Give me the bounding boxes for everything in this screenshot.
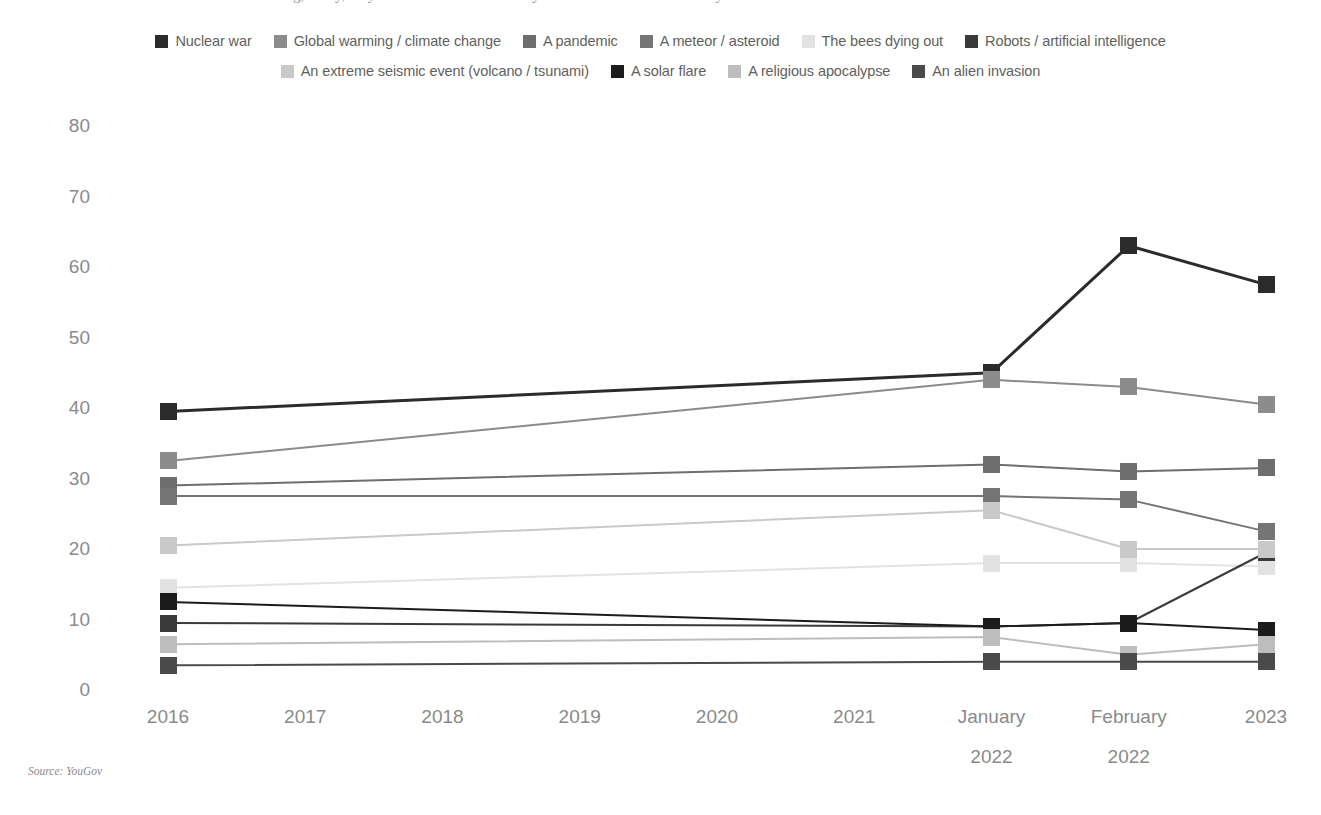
x-axis-tick-label: 2016 <box>147 706 189 728</box>
data-point-marker[interactable] <box>983 618 1000 635</box>
legend-item-label: Global warming / climate change <box>294 33 501 49</box>
chart-title-strip: Which of the following, if any, do you t… <box>0 0 1321 13</box>
data-point-marker[interactable] <box>160 403 177 420</box>
page-title: Which of the following, if any, do you t… <box>160 0 730 4</box>
x-axis-tick-label: 2019 <box>559 706 601 728</box>
data-point-marker[interactable] <box>1258 523 1275 540</box>
data-point-marker[interactable] <box>1258 558 1275 575</box>
data-point-marker[interactable] <box>983 653 1000 670</box>
plot-area: 0102030405060708020162017201820192020202… <box>0 0 1321 815</box>
legend-item[interactable]: An alien invasion <box>912 63 1040 79</box>
data-point-marker[interactable] <box>983 456 1000 473</box>
data-point-marker[interactable] <box>1120 463 1137 480</box>
y-axis-tick-label: 40 <box>30 397 90 419</box>
data-point-marker[interactable] <box>983 371 1000 388</box>
x-axis-tick-label: February <box>1091 706 1167 728</box>
series-line <box>168 563 1266 588</box>
data-point-marker[interactable] <box>983 629 1000 646</box>
data-point-marker[interactable] <box>160 593 177 610</box>
chart-container: Which of the following, if any, do you t… <box>0 0 1321 815</box>
y-axis-tick-label: 30 <box>30 468 90 490</box>
x-axis-tick-label: 2021 <box>833 706 875 728</box>
data-point-marker[interactable] <box>160 636 177 653</box>
plot-svg <box>0 0 1321 815</box>
x-axis-tick-label: 2018 <box>421 706 463 728</box>
legend-swatch-icon <box>523 35 536 48</box>
data-point-marker[interactable] <box>1120 615 1137 632</box>
series-line <box>168 380 1266 461</box>
y-axis-tick-label: 50 <box>30 327 90 349</box>
data-point-marker[interactable] <box>1120 646 1137 663</box>
legend-row-2: An extreme seismic event (volcano / tsun… <box>0 56 1321 86</box>
data-point-marker[interactable] <box>983 618 1000 635</box>
data-point-marker[interactable] <box>1120 555 1137 572</box>
data-point-marker[interactable] <box>1120 378 1137 395</box>
data-point-marker[interactable] <box>160 537 177 554</box>
legend-item[interactable]: Nuclear war <box>155 33 251 49</box>
legend-swatch-icon <box>802 35 815 48</box>
legend-item-label: Nuclear war <box>175 33 251 49</box>
legend-item-label: Robots / artificial intelligence <box>985 33 1166 49</box>
series-line <box>168 246 1266 412</box>
series-line <box>168 464 1266 485</box>
legend-item[interactable]: Robots / artificial intelligence <box>965 33 1166 49</box>
y-axis-tick-label: 60 <box>30 256 90 278</box>
data-point-marker[interactable] <box>1120 491 1137 508</box>
data-point-marker[interactable] <box>1258 396 1275 413</box>
x-axis-tick-label: 2017 <box>284 706 326 728</box>
legend-item[interactable]: An extreme seismic event (volcano / tsun… <box>281 63 589 79</box>
series-line <box>168 496 1266 531</box>
legend-swatch-icon <box>274 35 287 48</box>
legend-swatch-icon <box>912 65 925 78</box>
data-point-marker[interactable] <box>1258 459 1275 476</box>
data-point-marker[interactable] <box>1258 544 1275 561</box>
data-point-marker[interactable] <box>160 452 177 469</box>
y-axis-tick-label: 0 <box>30 679 90 701</box>
legend-item[interactable]: A meteor / asteroid <box>640 33 780 49</box>
legend-item-label: A pandemic <box>543 33 618 49</box>
data-point-marker[interactable] <box>1120 541 1137 558</box>
legend-item[interactable]: The bees dying out <box>802 33 944 49</box>
legend-item-label: A solar flare <box>631 63 706 79</box>
data-point-marker[interactable] <box>160 657 177 674</box>
data-point-marker[interactable] <box>983 555 1000 572</box>
source-note: Source: YouGov <box>28 765 102 777</box>
x-axis-tick-label: 2022 <box>1108 746 1150 768</box>
data-point-marker[interactable] <box>160 579 177 596</box>
data-point-marker[interactable] <box>1258 636 1275 653</box>
legend-swatch-icon <box>728 65 741 78</box>
legend-item[interactable]: A solar flare <box>611 63 706 79</box>
y-axis-tick-label: 70 <box>30 186 90 208</box>
legend-item-label: A religious apocalypse <box>748 63 890 79</box>
data-point-marker[interactable] <box>160 615 177 632</box>
legend-swatch-icon <box>611 65 624 78</box>
data-point-marker[interactable] <box>160 477 177 494</box>
x-axis-tick-label: 2023 <box>1245 706 1287 728</box>
legend-item[interactable]: A religious apocalypse <box>728 63 890 79</box>
legend-item-label: A meteor / asteroid <box>660 33 780 49</box>
data-point-marker[interactable] <box>1120 653 1137 670</box>
series-line <box>168 602 1266 630</box>
legend-swatch-icon <box>965 35 978 48</box>
legend-item[interactable]: A pandemic <box>523 33 618 49</box>
data-point-marker[interactable] <box>1258 541 1275 558</box>
legend-item-label: An extreme seismic event (volcano / tsun… <box>301 63 589 79</box>
series-line <box>168 637 1266 655</box>
data-point-marker[interactable] <box>1258 653 1275 670</box>
y-axis-tick-label: 80 <box>30 115 90 137</box>
data-point-marker[interactable] <box>983 364 1000 381</box>
data-point-marker[interactable] <box>160 488 177 505</box>
series-line <box>168 662 1266 666</box>
data-point-marker[interactable] <box>1258 622 1275 639</box>
legend-item-label: The bees dying out <box>822 33 944 49</box>
data-point-marker[interactable] <box>1120 237 1137 254</box>
data-point-marker[interactable] <box>1258 276 1275 293</box>
x-axis-tick-label: 2020 <box>696 706 738 728</box>
data-point-marker[interactable] <box>1120 615 1137 632</box>
legend-row-1: Nuclear warGlobal warming / climate chan… <box>0 26 1321 56</box>
series-line <box>168 510 1266 549</box>
data-point-marker[interactable] <box>983 502 1000 519</box>
data-point-marker[interactable] <box>983 488 1000 505</box>
chart-legend: Nuclear warGlobal warming / climate chan… <box>0 26 1321 86</box>
legend-item[interactable]: Global warming / climate change <box>274 33 501 49</box>
